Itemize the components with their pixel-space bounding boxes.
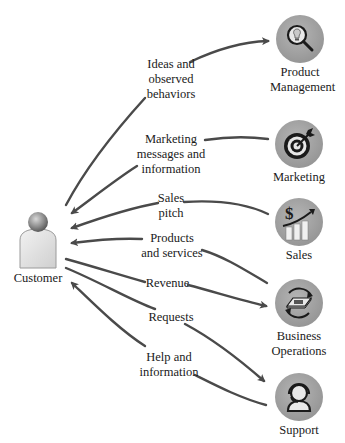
label-line: pitch bbox=[155, 206, 187, 221]
arrow-customer-to-revenue bbox=[66, 259, 145, 282]
node-circle: $ bbox=[275, 198, 323, 246]
money-cycle-icon bbox=[275, 279, 323, 327]
label-line: Help and bbox=[138, 350, 200, 365]
dollar-growth-chart-icon: $ bbox=[275, 198, 323, 246]
flow-label-marketing: Marketing messages and information bbox=[135, 132, 207, 177]
label-line: information bbox=[135, 162, 207, 177]
label-line: Products bbox=[140, 231, 204, 246]
label-line: messages and bbox=[135, 147, 207, 162]
flow-label-help: Help and information bbox=[138, 350, 200, 380]
label-line: Requests bbox=[146, 310, 196, 325]
customer-node: Customer bbox=[8, 210, 68, 286]
flow-label-products-services: Products and services bbox=[140, 231, 204, 261]
label-line: Support bbox=[269, 423, 329, 438]
label-line: observed bbox=[140, 72, 202, 87]
node-sales: $ Sales bbox=[269, 198, 329, 263]
node-support: Support bbox=[269, 373, 329, 438]
arrow-sales-to-customer bbox=[72, 203, 158, 228]
label-line: Business bbox=[269, 329, 329, 344]
node-label: Marketing bbox=[269, 170, 329, 185]
label-line: information bbox=[138, 365, 200, 380]
label-line: Product bbox=[270, 65, 330, 80]
arrow-revenue-to-bizops bbox=[188, 285, 266, 306]
node-label: Business Operations bbox=[269, 329, 329, 359]
svg-text:$: $ bbox=[285, 204, 294, 223]
flow-label-revenue: Revenue bbox=[145, 276, 190, 291]
node-product-management: Product Management bbox=[270, 15, 330, 95]
node-label: Product Management bbox=[270, 65, 330, 95]
node-label: Support bbox=[269, 423, 329, 438]
node-marketing: Marketing bbox=[269, 120, 329, 185]
label-line: Ideas and bbox=[140, 57, 202, 72]
target-dart-icon bbox=[275, 120, 323, 168]
flow-label-sales-pitch: Sales pitch bbox=[155, 191, 187, 221]
arrow-help-to-customer bbox=[72, 283, 145, 346]
arrow-marketing-to-customer-tail bbox=[205, 137, 268, 140]
headset-person-icon bbox=[275, 373, 323, 421]
label-line: and services bbox=[140, 246, 204, 261]
label-line: Sales bbox=[269, 248, 329, 263]
label-line: Marketing bbox=[135, 132, 207, 147]
label-line: Operations bbox=[269, 344, 329, 359]
arrow-bizops-to-customer bbox=[72, 239, 142, 243]
label-line: Sales bbox=[155, 191, 187, 206]
arrow-support-to-help-tail bbox=[195, 375, 266, 405]
flow-label-ideas: Ideas and observed behaviors bbox=[140, 57, 202, 102]
node-label: Sales bbox=[269, 248, 329, 263]
node-circle bbox=[275, 279, 323, 327]
customer-interaction-diagram: Ideas and observed behaviors Marketing m… bbox=[0, 0, 345, 443]
node-business-operations: Business Operations bbox=[269, 279, 329, 359]
label-line: Management bbox=[270, 80, 330, 95]
customer-label: Customer bbox=[8, 271, 68, 286]
lightbulb-magnifier-icon bbox=[276, 15, 324, 63]
label-line: Marketing bbox=[269, 170, 329, 185]
node-circle bbox=[276, 15, 324, 63]
arrow-marketing-to-customer bbox=[72, 166, 137, 213]
node-circle bbox=[275, 373, 323, 421]
person-icon bbox=[16, 210, 60, 270]
label-line: Revenue bbox=[145, 276, 190, 291]
label-line: behaviors bbox=[140, 87, 202, 102]
arrow-bizops-to-customer-tail bbox=[202, 250, 267, 283]
arrow-sales-to-customer-tail bbox=[184, 201, 268, 214]
node-circle bbox=[275, 120, 323, 168]
flow-label-requests: Requests bbox=[146, 310, 196, 325]
